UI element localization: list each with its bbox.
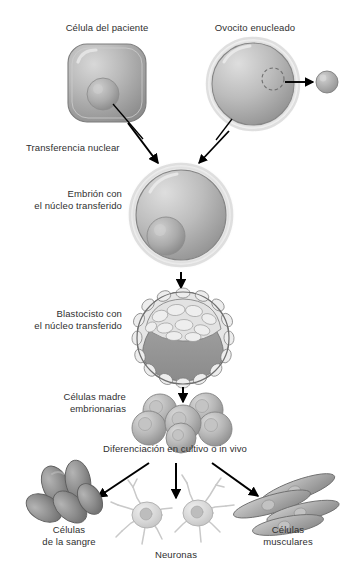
label-enucleated-oocyte: Ovocito enucleado — [196, 22, 314, 34]
label-patient-cell: Célula del paciente — [48, 22, 166, 34]
label-differentiation: Diferenciación en cultivo o in vivo — [60, 443, 290, 455]
blastocyst-illustration — [131, 288, 234, 388]
reconstructed-embryo-illustration — [126, 160, 236, 270]
label-neurons: Neuronas — [132, 549, 220, 561]
diagram-canvas: Célula del paciente Ovocito enucleado Tr… — [0, 0, 350, 576]
arrow-to-muscle-cells — [212, 463, 258, 496]
enucleated-oocyte-illustration — [204, 35, 302, 133]
label-embryo: Embrión con el núcleo transferido — [6, 188, 122, 211]
label-blood-cells: Células de la sangre — [20, 524, 118, 547]
label-stem-cells: Células madre embrionarias — [22, 391, 126, 414]
neuron-pair-illustration — [111, 475, 234, 544]
label-nuclear-transfer: Transferencia nuclear — [26, 142, 156, 154]
label-muscle-cells: Células musculares — [242, 524, 334, 547]
blood-cell-cluster-illustration — [21, 458, 107, 529]
arrow-to-blood-cells — [98, 463, 149, 497]
label-blastocyst: Blastocisto con el núcleo transferido — [6, 308, 122, 331]
diagram-artwork — [0, 0, 350, 576]
arrow-oocyte-to-embryo — [199, 131, 229, 163]
patient-cell-illustration — [68, 44, 146, 122]
